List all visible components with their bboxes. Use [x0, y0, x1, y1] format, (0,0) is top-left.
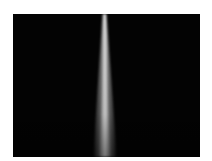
spray-image: [13, 14, 200, 157]
spray-jet: [13, 14, 200, 157]
